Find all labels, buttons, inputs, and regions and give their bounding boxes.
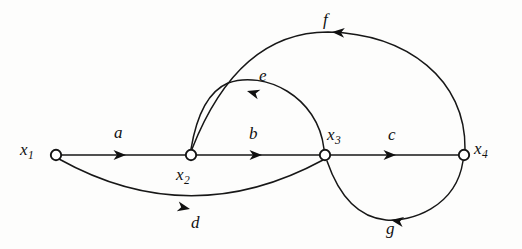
node-label-subscript-x4: 4 (482, 148, 488, 160)
node-label-subscript-x2: 2 (184, 174, 190, 186)
edge-label-d: d (191, 214, 200, 231)
arrowhead-d (177, 202, 191, 214)
graph-diagram-figure: abcdefg x1x2x3x4 (0, 0, 522, 249)
node-x2 (186, 150, 196, 160)
node-label-x3: x3 (327, 126, 341, 146)
node-label-base-x4: x (474, 139, 482, 158)
edge-label-a: a (114, 124, 123, 141)
edge-label-b: b (249, 125, 258, 142)
arrowhead-e (246, 86, 261, 99)
node-label-x2: x2 (176, 166, 190, 186)
edge-label-f: f (323, 11, 328, 28)
node-label-base-x1: x (20, 140, 28, 159)
edge-g (327, 161, 463, 220)
edge-label-e: e (259, 67, 267, 84)
node-label-base-x2: x (176, 165, 184, 184)
node-x1 (51, 150, 61, 160)
node-x3 (320, 150, 330, 160)
node-label-subscript-x1: 1 (28, 149, 34, 161)
edge-label-g: g (386, 220, 395, 237)
edge-label-c: c (388, 126, 396, 143)
node-label-base-x3: x (327, 125, 335, 144)
node-label-x1: x1 (20, 141, 34, 161)
node-label-subscript-x3: 3 (335, 134, 341, 146)
node-label-x4: x4 (474, 140, 488, 160)
node-x4 (459, 150, 469, 160)
edge-d (59, 159, 323, 196)
graph-canvas (0, 0, 522, 249)
arrowheads-layer (114, 27, 405, 227)
